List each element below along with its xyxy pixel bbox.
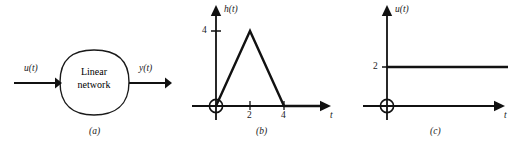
panel-b-x-axis-label: t xyxy=(330,111,333,121)
block-label-line1: Linear xyxy=(58,66,130,79)
panel-a-caption: (a) xyxy=(89,127,100,137)
panel-a-block-diagram: Linear network u(t) y(t) (a) xyxy=(0,0,180,149)
input-arrow xyxy=(14,78,62,89)
panel-c-y-axis-label: u(t) xyxy=(395,5,409,15)
output-signal-label: y(t) xyxy=(139,64,152,74)
panel-b-impulse-response-plot: h(t) t 4 2 4 (b) xyxy=(180,0,345,149)
panel-c-x-axis-label: t xyxy=(504,111,507,121)
y-axis xyxy=(211,5,221,120)
panel-b-y-axis-label: h(t) xyxy=(224,5,238,15)
x-axis xyxy=(363,101,505,111)
panel-c-y-tick-label-2: 2 xyxy=(373,62,378,72)
panel-b-y-tick-label-4: 4 xyxy=(202,26,207,36)
y-axis xyxy=(382,5,392,120)
input-signal-label: u(t) xyxy=(24,64,38,74)
panel-b-caption: (b) xyxy=(256,127,267,137)
impulse-response-curve xyxy=(216,31,321,106)
block-label-line2: network xyxy=(58,79,130,92)
figure-root: Linear network u(t) y(t) (a) xyxy=(0,0,529,149)
panel-c-caption: (c) xyxy=(430,127,441,137)
linear-network-label: Linear network xyxy=(58,66,130,91)
panel-c-input-signal-plot: u(t) t 2 (c) xyxy=(345,0,529,149)
panel-b-x-tick-label-4: 4 xyxy=(281,111,286,121)
panel-b-x-tick-label-2: 2 xyxy=(247,111,252,121)
output-arrow xyxy=(129,78,172,89)
